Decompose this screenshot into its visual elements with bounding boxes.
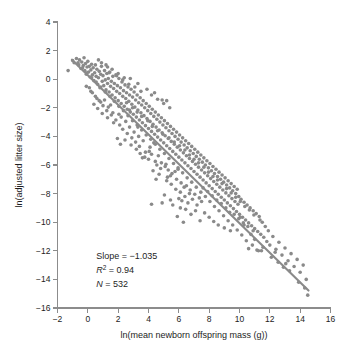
data-point bbox=[188, 157, 192, 161]
data-point bbox=[295, 258, 299, 262]
data-point bbox=[173, 170, 177, 174]
data-point bbox=[150, 203, 154, 207]
data-point bbox=[169, 125, 173, 129]
data-point bbox=[150, 130, 154, 134]
data-point bbox=[212, 220, 216, 224]
data-point bbox=[110, 67, 114, 71]
data-point bbox=[135, 110, 139, 114]
data-point bbox=[136, 82, 140, 86]
data-point bbox=[166, 168, 170, 172]
data-point bbox=[182, 220, 186, 224]
data-point bbox=[131, 95, 135, 99]
y-tick-label: −6 bbox=[41, 160, 51, 170]
data-point bbox=[175, 130, 179, 134]
y-tick-label: −2 bbox=[41, 103, 51, 113]
data-point bbox=[107, 105, 111, 109]
data-point bbox=[138, 118, 142, 122]
data-point bbox=[135, 115, 139, 119]
data-point bbox=[228, 186, 232, 190]
data-point bbox=[229, 229, 233, 233]
data-point bbox=[229, 182, 233, 186]
data-point bbox=[112, 121, 116, 125]
data-point bbox=[252, 213, 256, 217]
data-point bbox=[225, 187, 229, 191]
x-tick-label: 4 bbox=[146, 314, 151, 324]
x-tick-label: 0 bbox=[85, 314, 90, 324]
data-point bbox=[105, 109, 109, 113]
data-point bbox=[161, 123, 165, 127]
data-point bbox=[192, 170, 196, 174]
data-point bbox=[192, 157, 196, 161]
data-point bbox=[286, 259, 290, 263]
data-point bbox=[223, 176, 227, 180]
data-point bbox=[182, 143, 186, 147]
data-point bbox=[185, 154, 189, 158]
data-point bbox=[130, 136, 134, 140]
data-point bbox=[236, 203, 240, 207]
data-point bbox=[139, 111, 143, 115]
y-tick-label: −10 bbox=[36, 217, 51, 227]
data-point bbox=[180, 158, 184, 162]
data-point bbox=[153, 91, 157, 95]
x-tick-label: 14 bbox=[295, 314, 305, 324]
data-point bbox=[150, 125, 154, 129]
data-point bbox=[222, 214, 226, 218]
data-point bbox=[203, 171, 207, 175]
data-point bbox=[122, 89, 126, 93]
data-point bbox=[114, 118, 118, 122]
data-point bbox=[172, 162, 176, 166]
data-point bbox=[133, 85, 137, 89]
data-point bbox=[155, 163, 159, 167]
data-point bbox=[247, 247, 251, 251]
data-point bbox=[154, 110, 158, 114]
data-point bbox=[268, 243, 272, 247]
data-point bbox=[175, 178, 179, 182]
data-point bbox=[165, 144, 169, 148]
data-point bbox=[151, 169, 155, 173]
data-point bbox=[220, 173, 224, 177]
data-point bbox=[213, 190, 217, 194]
data-point bbox=[198, 157, 202, 161]
data-point bbox=[166, 122, 170, 126]
x-tick-label: 16 bbox=[326, 314, 336, 324]
data-point bbox=[128, 108, 132, 112]
data-point bbox=[258, 218, 262, 222]
data-point bbox=[248, 208, 252, 212]
data-point bbox=[95, 97, 99, 101]
data-point bbox=[141, 99, 145, 103]
data-point bbox=[190, 145, 194, 149]
data-point bbox=[172, 140, 176, 144]
data-point bbox=[138, 145, 142, 149]
data-point bbox=[147, 105, 151, 109]
data-point bbox=[232, 207, 236, 211]
data-point bbox=[240, 233, 244, 237]
data-point bbox=[159, 138, 163, 142]
data-point bbox=[191, 152, 195, 156]
data-point bbox=[306, 293, 310, 297]
data-point bbox=[176, 137, 180, 141]
plot-canvas: −20246810121416ln(mean newborn offspring… bbox=[0, 0, 358, 357]
data-point bbox=[169, 198, 173, 202]
data-point bbox=[179, 148, 183, 152]
data-point bbox=[195, 172, 199, 176]
data-point bbox=[231, 223, 235, 227]
data-point bbox=[121, 95, 125, 99]
data-point bbox=[184, 139, 188, 143]
data-point bbox=[166, 175, 170, 179]
data-point bbox=[304, 278, 308, 282]
y-tick-label: 0 bbox=[46, 74, 51, 84]
x-tick-label: 2 bbox=[116, 314, 121, 324]
data-point bbox=[113, 82, 117, 86]
data-point bbox=[173, 135, 177, 139]
data-point bbox=[129, 87, 133, 91]
data-point bbox=[176, 167, 180, 171]
data-point bbox=[216, 223, 220, 227]
data-points bbox=[66, 56, 309, 297]
data-point bbox=[198, 196, 202, 200]
data-point bbox=[153, 132, 157, 136]
data-point bbox=[197, 165, 201, 169]
data-point bbox=[256, 230, 260, 234]
data-point bbox=[144, 124, 148, 128]
data-point bbox=[207, 170, 211, 174]
data-point bbox=[216, 193, 220, 197]
